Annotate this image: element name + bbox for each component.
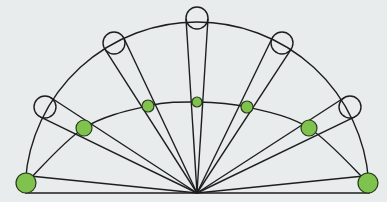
green-dot [241, 101, 253, 113]
ray-line [30, 176, 197, 193]
open-circle [271, 32, 293, 54]
green-dot [142, 100, 154, 112]
open-circle [34, 96, 56, 118]
ray-line [197, 176, 364, 193]
green-dot [16, 173, 36, 193]
ray-line [40, 117, 197, 193]
ray-line [197, 117, 355, 193]
green-dot [301, 120, 317, 136]
ray-line [197, 49, 291, 193]
green-dot [192, 97, 202, 107]
ray-line [105, 49, 197, 193]
green-dot [358, 173, 378, 193]
ray-line [197, 38, 272, 193]
semicircle-ray-diagram [0, 0, 387, 202]
inner-arc [26, 102, 368, 183]
open-circle [186, 7, 208, 29]
green-dot [76, 120, 92, 136]
